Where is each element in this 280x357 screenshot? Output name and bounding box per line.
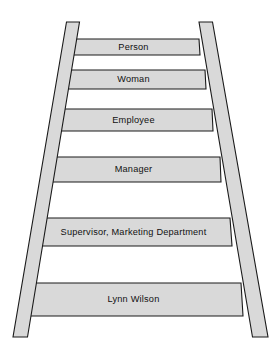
rung-4-label: Manager: [115, 164, 153, 174]
rung-1-label: Person: [118, 42, 148, 52]
rung-6-label: Lynn Wilson: [108, 294, 160, 304]
rung-3-label: Employee: [112, 115, 154, 125]
ladder-illustration: Person Woman Employee Manager Supervisor…: [0, 0, 280, 357]
rung-5-label: Supervisor, Marketing Department: [61, 227, 207, 237]
ladder-diagram: Person Woman Employee Manager Supervisor…: [0, 0, 280, 357]
rung-1[interactable]: Person: [67, 39, 200, 55]
rung-6[interactable]: Lynn Wilson: [24, 283, 243, 316]
rung-5[interactable]: Supervisor, Marketing Department: [35, 218, 232, 246]
rung-4[interactable]: Manager: [46, 157, 221, 182]
rung-2-label: Woman: [117, 74, 150, 84]
rung-3[interactable]: Employee: [54, 109, 213, 131]
rung-2[interactable]: Woman: [61, 70, 206, 89]
